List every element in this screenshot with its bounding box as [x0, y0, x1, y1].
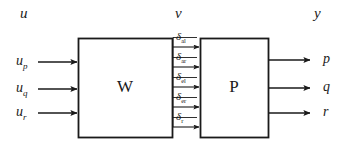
- signal-delta-ar-label: δar: [176, 51, 186, 65]
- signal-delta-el-label: δel: [176, 71, 186, 85]
- intermediate-group-label: v: [175, 6, 182, 21]
- output-signal-r-label: r: [323, 105, 328, 119]
- signal-delta-r-label: δr: [176, 111, 183, 125]
- input-group-label: u: [20, 6, 28, 21]
- output-group-label: y: [314, 6, 321, 21]
- input-signal-ur-label: ur: [16, 105, 27, 122]
- block-w-label: W: [78, 77, 172, 97]
- input-signal-uq-label: uq: [16, 81, 28, 98]
- diagram-canvas: [0, 0, 347, 143]
- block-p-label: P: [200, 77, 268, 97]
- output-signal-q-label: q: [323, 80, 330, 94]
- signal-delta-al-label: δal: [176, 31, 186, 45]
- output-signal-p-label: p: [323, 52, 330, 66]
- signal-delta-er-label: δer: [176, 91, 186, 105]
- input-signal-up-label: up: [16, 54, 28, 71]
- block-diagram: WPuvyupuqurδalδarδelδerδrpqr: [0, 0, 347, 143]
